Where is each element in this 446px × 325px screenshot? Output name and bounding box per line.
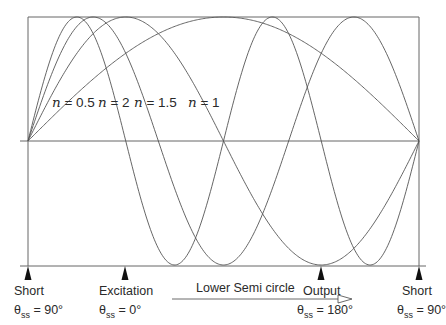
curve-label: n = 1.5	[134, 94, 177, 110]
marker-label-short: Short	[402, 284, 432, 298]
marker-triangle-icon	[416, 266, 423, 280]
theta-ss-value: θss = 180°	[297, 303, 353, 320]
curve-label: n = 0.5	[52, 94, 95, 110]
lower-semicircle-label: Lower Semi circle	[196, 281, 295, 295]
curve-label: n = 1	[188, 94, 220, 110]
marker-triangle-icon	[318, 266, 325, 280]
marker-label-short: Short	[14, 284, 44, 298]
curve-label: n = 2	[98, 94, 130, 110]
curve-n-0-5	[28, 17, 419, 141]
theta-ss-value: θss = 90°	[397, 303, 446, 320]
position-markers	[25, 266, 423, 280]
standing-wave-diagram	[0, 0, 446, 325]
marker-triangle-icon	[25, 266, 32, 280]
theta-ss-value: θss = 0°	[99, 303, 141, 320]
theta-ss-value: θss = 90°	[14, 303, 63, 320]
marker-label-excitation: Excitation	[99, 284, 153, 298]
marker-label-output: Output	[303, 284, 341, 298]
marker-triangle-icon	[122, 266, 129, 280]
